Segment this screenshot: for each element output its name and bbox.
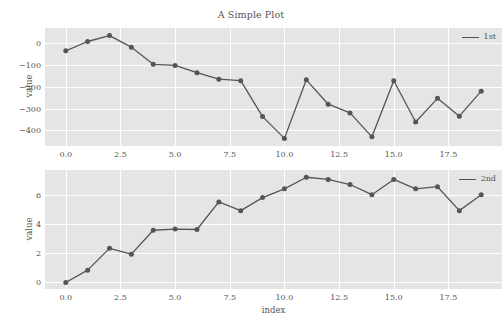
page-title: A Simple Plot [0, 9, 502, 20]
y-tick-label: 2 [36, 249, 41, 258]
y-axis-label-top: value [24, 74, 34, 97]
data-point-marker [173, 227, 178, 232]
x-tick-label: 2.5 [114, 293, 127, 302]
data-point-marker [107, 33, 112, 38]
x-tick-label: 7.5 [223, 150, 236, 159]
x-tick-label: 15.0 [385, 293, 403, 302]
data-point-marker [369, 192, 374, 197]
line-plot-top [45, 28, 502, 146]
data-point-marker [85, 268, 90, 273]
data-point-marker [369, 134, 374, 139]
data-point-marker [435, 184, 440, 189]
data-point-marker [479, 89, 484, 94]
line-plot-bottom [45, 170, 502, 289]
data-point-marker [326, 177, 331, 182]
data-point-marker [457, 114, 462, 119]
data-point-marker [391, 177, 396, 182]
data-point-marker [413, 120, 418, 125]
legend-label-2nd: 2nd [481, 175, 496, 183]
legend-bottom: 2nd [459, 175, 496, 183]
data-point-marker [304, 77, 309, 82]
y-tick-label: 0 [36, 278, 41, 287]
legend-top: 1st [462, 33, 496, 41]
x-tick-label: 5.0 [169, 150, 182, 159]
data-point-marker [173, 63, 178, 68]
data-point-marker [216, 199, 221, 204]
data-point-marker [282, 136, 287, 141]
data-point-marker [194, 70, 199, 75]
x-tick-label: 5.0 [169, 293, 182, 302]
x-tick-label: 0.0 [59, 293, 72, 302]
chart-axes-top: 0−100−200−300−4000.02.55.07.510.012.515.… [45, 28, 502, 146]
data-point-marker [260, 195, 265, 200]
y-tick-label: −100 [19, 61, 41, 70]
x-tick-label: 10.0 [276, 150, 294, 159]
y-tick-label: 0 [36, 39, 41, 48]
x-tick-label: 15.0 [385, 150, 403, 159]
data-point-marker [435, 96, 440, 101]
data-point-marker [238, 208, 243, 213]
legend-line-icon [462, 37, 479, 38]
data-point-marker [457, 208, 462, 213]
data-point-marker [479, 192, 484, 197]
data-point-marker [129, 252, 134, 257]
data-point-marker [216, 77, 221, 82]
data-point-marker [129, 45, 134, 50]
x-tick-label: 10.0 [276, 293, 294, 302]
x-tick-label: 0.0 [59, 150, 72, 159]
legend-label-1st: 1st [484, 33, 496, 41]
x-tick-label: 12.5 [330, 150, 348, 159]
y-axis-label-bottom: value [24, 217, 34, 240]
y-tick-label: 6 [36, 191, 41, 200]
data-point-marker [238, 78, 243, 83]
x-tick-label: 12.5 [330, 293, 348, 302]
x-tick-label: 2.5 [114, 150, 127, 159]
data-point-marker [63, 48, 68, 53]
data-point-marker [107, 246, 112, 251]
y-tick-label: −400 [19, 126, 41, 135]
x-tick-label: 7.5 [223, 293, 236, 302]
y-tick-label: −300 [19, 104, 41, 113]
x-tick-label: 17.5 [440, 150, 458, 159]
y-tick-label: 4 [36, 220, 41, 229]
data-point-marker [194, 227, 199, 232]
data-point-marker [260, 114, 265, 119]
x-axis-label: index [45, 305, 502, 315]
data-point-marker [304, 175, 309, 180]
x-tick-label: 17.5 [440, 293, 458, 302]
series-line-2nd [66, 177, 481, 282]
data-point-marker [348, 182, 353, 187]
data-point-marker [85, 39, 90, 44]
data-point-marker [63, 280, 68, 285]
data-point-marker [348, 110, 353, 115]
legend-line-icon [459, 179, 476, 180]
data-point-marker [282, 186, 287, 191]
figure-canvas: A Simple Plot 0−100−200−300−4000.02.55.0… [0, 0, 502, 326]
data-point-marker [151, 228, 156, 233]
data-point-marker [413, 186, 418, 191]
data-point-marker [326, 102, 331, 107]
series-line-1st [66, 36, 481, 139]
chart-axes-bottom: 02460.02.55.07.510.012.515.017.5 value i… [45, 170, 502, 289]
data-point-marker [391, 78, 396, 83]
data-point-marker [151, 62, 156, 67]
